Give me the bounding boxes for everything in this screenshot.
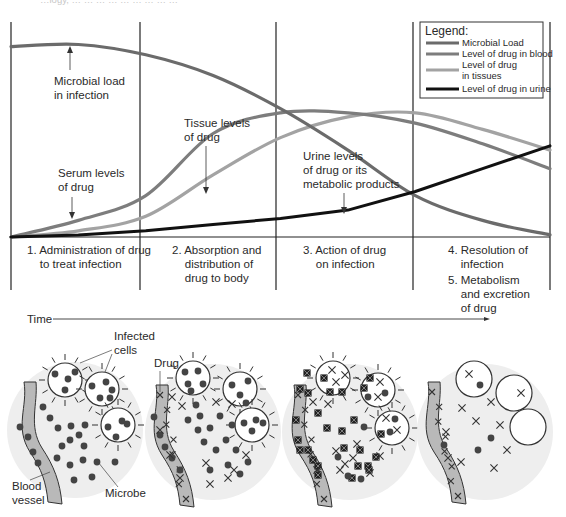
- illustrations: [7, 352, 553, 507]
- illustration-panel-3: [282, 352, 418, 507]
- cell-spike-icon: [112, 366, 115, 371]
- microbe-icon: [229, 422, 236, 429]
- microbe-icon: [488, 435, 495, 442]
- microbe-icon: [82, 422, 89, 429]
- cell-spike-icon: [388, 367, 391, 372]
- microbe-icon: [40, 404, 47, 411]
- microbe-icon: [25, 434, 32, 441]
- microbe-icon: [237, 471, 244, 478]
- microbe-icon: [441, 442, 448, 449]
- legend: Legend: Microbial Load Level of drug in …: [420, 22, 553, 98]
- legend-label: Microbial Load: [462, 37, 524, 48]
- microbe-icon: [62, 387, 69, 394]
- microbe-icon: [188, 388, 195, 395]
- microbe-icon: [213, 447, 220, 454]
- dead-microbe-icon: [304, 389, 311, 396]
- microbe-icon: [80, 457, 87, 464]
- microbe-icon: [225, 462, 232, 469]
- dead-microbe-icon: [304, 446, 311, 453]
- microbe-icon: [345, 473, 352, 480]
- microbe-icon: [477, 382, 484, 389]
- stage-text: to treat infection: [27, 258, 122, 270]
- microbe-icon: [207, 467, 214, 474]
- leader-line: [105, 354, 112, 372]
- annotation-text: in infection: [54, 89, 109, 101]
- annotation-text: Microbial load: [54, 75, 125, 87]
- annotation-text: Tissue levels: [184, 117, 250, 129]
- cell-spike-icon: [250, 366, 253, 371]
- microbe-icon: [35, 460, 42, 467]
- microbe-icon: [109, 387, 116, 394]
- cell-spike-icon: [310, 365, 315, 368]
- annotation-text: of drug: [184, 131, 220, 143]
- microbe-icon: [193, 402, 200, 409]
- annotation-text: Urine levels: [303, 150, 363, 162]
- cell-spike-icon: [395, 377, 400, 380]
- microbe-icon: [65, 376, 72, 383]
- top-caption-fragment: …logy, … … … … … … … … …: [40, 0, 178, 5]
- microbe-icon: [245, 378, 252, 385]
- microbe-icon: [54, 455, 61, 462]
- arrowhead-icon: [67, 46, 73, 53]
- microbe-icon: [243, 400, 250, 407]
- dead-microbe-icon: [314, 471, 321, 478]
- cell-membrane: [456, 361, 492, 397]
- stage-text: 4. Resolution of: [448, 244, 529, 256]
- arrowhead-icon: [203, 187, 209, 194]
- microbe-icon: [81, 443, 88, 450]
- arrowhead-icon: [69, 212, 75, 219]
- dead-microbe-icon: [377, 430, 384, 437]
- microbe-icon: [68, 423, 75, 430]
- microbe-icon: [182, 369, 189, 376]
- cell-spike-icon: [257, 376, 262, 379]
- drug-label: Drug: [154, 357, 179, 369]
- time-arrowhead-icon: [484, 317, 490, 321]
- time-axis: Time: [27, 313, 490, 325]
- infected-cells-label: cells: [114, 344, 137, 356]
- dead-microbe-icon: [360, 384, 367, 391]
- microbe-icon: [241, 420, 248, 427]
- dead-microbe-icon: [340, 444, 347, 451]
- microbe-icon: [55, 425, 62, 432]
- microbe-icon: [71, 477, 78, 484]
- blood-vessel-label: Blood: [12, 480, 41, 492]
- cell-spike-icon: [343, 355, 346, 360]
- dead-microbe-icon: [309, 456, 316, 463]
- microbe-icon: [72, 369, 79, 376]
- dead-microbe-icon: [303, 369, 310, 376]
- dead-microbe-icon: [326, 388, 333, 395]
- microbe-icon: [105, 424, 112, 431]
- microbe-icon: [162, 444, 169, 451]
- microbe-icon: [89, 383, 96, 390]
- microbe-icon: [103, 379, 110, 386]
- blood-vessel-label: vessel: [12, 494, 45, 506]
- infected-cell: [510, 409, 546, 445]
- microbe-icon: [207, 425, 214, 432]
- legend-title: Legend:: [425, 24, 468, 38]
- microbe-icon: [30, 449, 37, 456]
- microbe-icon: [124, 421, 131, 428]
- leader-line: [80, 350, 112, 363]
- dead-microbe-icon: [350, 416, 357, 423]
- microbe-icon: [237, 392, 244, 399]
- microbe-icon: [113, 434, 120, 441]
- stage-text: drug to body: [172, 272, 249, 284]
- infected-cell: [456, 361, 492, 397]
- microbe-icon: [249, 428, 256, 435]
- cell-spike-icon: [119, 376, 124, 379]
- infected-cell: [496, 375, 532, 411]
- microbe-icon: [382, 390, 389, 397]
- cell-membrane: [375, 411, 409, 445]
- stage-label-4-5: 4. Resolution of infection 5. Metabolism…: [448, 244, 530, 314]
- stage-label-3: 3. Action of drug on infection: [303, 244, 386, 270]
- microbe-icon: [52, 371, 59, 378]
- annotation-text: of drug or its: [303, 164, 367, 176]
- stage-text: 3. Action of drug: [303, 244, 386, 256]
- microbe-icon: [361, 424, 368, 431]
- stage-text: 5. Metabolism: [448, 274, 520, 286]
- stage-text: distribution of: [172, 258, 254, 270]
- microbe-icon: [151, 414, 158, 421]
- stage-text: 2. Absorption and: [172, 244, 262, 256]
- microbe-icon: [112, 459, 119, 466]
- legend-label: in tissues: [462, 70, 502, 81]
